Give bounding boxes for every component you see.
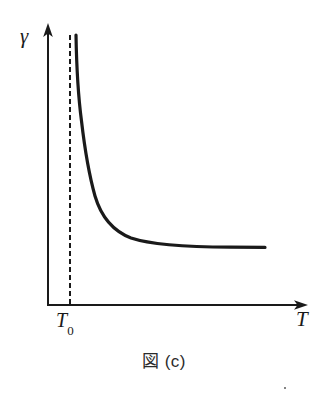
- scan-artifact-speck: [284, 387, 286, 389]
- t0-subscript: 0: [67, 323, 74, 338]
- x-axis-tick-label-t0: T0: [56, 310, 74, 334]
- gamma-curve: [76, 35, 265, 247]
- y-axis-label: γ: [20, 26, 28, 47]
- plot-canvas: [0, 0, 328, 399]
- figure-container: γ T T0 図 (c): [0, 0, 328, 399]
- figure-caption: 図 (c): [0, 352, 328, 372]
- x-axis-label: T: [296, 309, 308, 330]
- t0-base-letter: T: [56, 309, 67, 331]
